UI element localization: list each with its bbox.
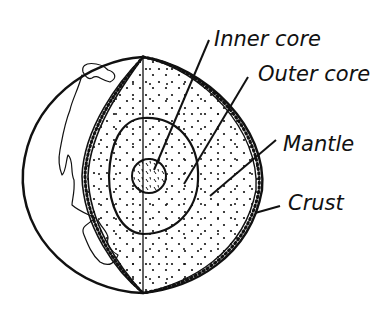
label-mantle: Mantle — [283, 132, 354, 156]
label-crust: Crust — [288, 191, 345, 215]
label-inner-core: Inner core — [214, 27, 321, 51]
inner-core-region — [132, 159, 166, 193]
label-outer-core: Outer core — [258, 62, 370, 86]
earth-layers-diagram: Inner core Outer core Mantle Crust — [0, 0, 390, 313]
